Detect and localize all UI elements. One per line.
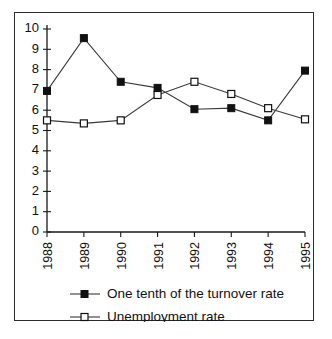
data-point-marker[interactable]	[80, 120, 87, 127]
y-tick-label: 6	[32, 102, 39, 117]
data-point-marker[interactable]	[154, 91, 161, 98]
x-tick-label: 1988	[41, 242, 55, 270]
y-tick-label: 5	[32, 122, 39, 137]
data-point-marker[interactable]	[191, 106, 198, 113]
data-point-marker[interactable]	[80, 35, 87, 42]
data-point-marker[interactable]	[228, 90, 235, 97]
y-tick-label: 0	[32, 223, 39, 238]
legend-label[interactable]: One tenth of the turnover rate	[107, 286, 284, 301]
line-chart: 0123456789101988198919901991199219931994…	[15, 13, 315, 322]
chart-frame: 0123456789101988198919901991199219931994…	[14, 12, 314, 321]
legend-marker-filled-square	[81, 291, 88, 298]
x-tick-label: 1994	[262, 242, 276, 270]
x-tick-label: 1989	[78, 242, 92, 270]
y-tick-label: 3	[32, 163, 39, 178]
y-tick-label: 7	[32, 81, 39, 96]
data-point-marker[interactable]	[302, 116, 309, 123]
y-tick-label: 10	[25, 20, 39, 35]
legend-label[interactable]: Unemployment rate	[107, 309, 225, 322]
y-tick-label: 1	[32, 203, 39, 218]
data-point-marker[interactable]	[191, 78, 198, 85]
data-point-marker[interactable]	[228, 105, 235, 112]
data-point-marker[interactable]	[265, 105, 272, 112]
x-tick-label: 1991	[152, 242, 166, 270]
y-tick-label: 9	[32, 41, 39, 56]
data-point-marker[interactable]	[302, 67, 309, 74]
y-tick-label: 4	[32, 142, 39, 157]
y-tick-label: 8	[32, 61, 39, 76]
legend-marker-open-square	[81, 314, 88, 321]
data-point-marker[interactable]	[44, 117, 51, 124]
chart-plot-area: 0123456789101988198919901991199219931994…	[15, 13, 315, 322]
x-tick-label: 1990	[115, 242, 129, 270]
x-tick-label: 1993	[225, 242, 239, 270]
x-tick-label: 1992	[188, 242, 202, 270]
x-tick-label: 1995	[299, 242, 313, 270]
data-point-marker[interactable]	[44, 87, 51, 94]
data-point-marker[interactable]	[117, 117, 124, 124]
data-point-marker[interactable]	[117, 78, 124, 85]
data-point-marker[interactable]	[265, 117, 272, 124]
y-tick-label: 2	[32, 183, 39, 198]
data-point-marker[interactable]	[154, 84, 161, 91]
